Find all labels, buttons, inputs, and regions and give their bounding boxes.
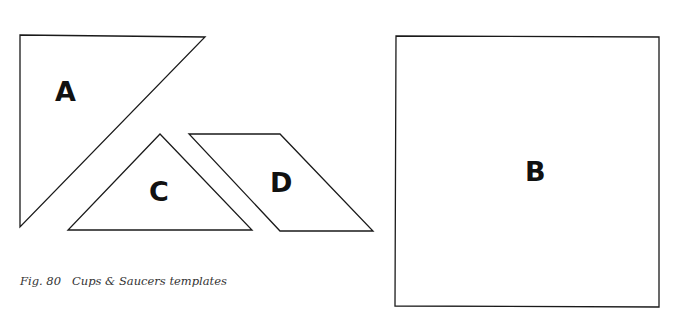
template-d-label: D: [270, 169, 292, 196]
template-c-label: C: [149, 178, 169, 205]
template-a-label: A: [55, 78, 76, 105]
template-b-label: B: [525, 158, 546, 185]
templates-diagram: [0, 0, 678, 319]
figure-caption: Fig. 80 Cups & Saucers templates: [20, 274, 227, 288]
